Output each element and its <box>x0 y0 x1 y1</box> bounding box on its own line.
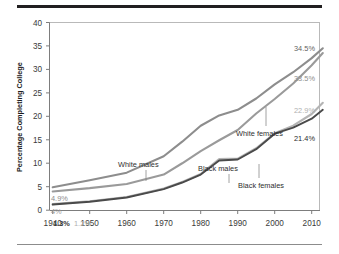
plot-container: 40 35 30 25 20 15 10 5 0 <box>0 14 339 240</box>
y-tick-label: 0 <box>37 206 42 215</box>
end-value-white-females: 33.5% <box>294 74 315 83</box>
end-value-white-males: 34.5% <box>294 44 315 53</box>
start-value-black-males: 1.3% <box>53 219 70 228</box>
y-tick-label: 20 <box>33 112 43 121</box>
y-tick-label: 40 <box>33 19 43 28</box>
y-axis-title: Percentage Completing College <box>15 62 24 172</box>
x-tick-label: 1980 <box>192 219 211 228</box>
bottom-divider-rule <box>17 244 322 245</box>
end-value-black-females: 21.4% <box>294 134 315 143</box>
chart-figure: 40 35 30 25 20 15 10 5 0 <box>0 0 339 254</box>
line-chart-svg: 40 35 30 25 20 15 10 5 0 <box>0 14 339 240</box>
end-value-black-males: 22.9% <box>294 106 315 115</box>
start-value-black-females: 1.2% <box>74 219 91 228</box>
series-line-white-females <box>53 53 323 191</box>
y-tick-label: 35 <box>33 42 43 51</box>
annotation-black-females: Black females <box>238 181 284 190</box>
y-tick-label: 25 <box>33 89 43 98</box>
y-axis-ticks <box>46 23 50 211</box>
x-tick-label: 1970 <box>155 219 174 228</box>
y-tick-label: 10 <box>33 159 43 168</box>
annotation-white-males: White males <box>118 160 159 169</box>
annotation-white-females: White females <box>236 129 283 138</box>
y-axis-tick-labels: 40 35 30 25 20 15 10 5 0 <box>33 19 43 216</box>
x-tick-label: 1990 <box>229 219 248 228</box>
x-tick-label: 2010 <box>303 219 322 228</box>
x-axis-ticks <box>53 211 312 215</box>
series-line-black-females <box>53 110 323 205</box>
y-tick-label: 15 <box>33 136 43 145</box>
annotation-black-males: Black males <box>198 164 238 173</box>
x-tick-label: 2000 <box>266 219 285 228</box>
start-value-white-males: 4.9% <box>51 194 68 203</box>
start-value-white-females: 4% <box>51 207 62 216</box>
series-line-white-males <box>53 48 323 187</box>
top-divider-rule <box>17 5 322 8</box>
x-tick-label: 1960 <box>118 219 137 228</box>
y-tick-label: 5 <box>37 183 42 192</box>
y-tick-label: 30 <box>33 65 43 74</box>
